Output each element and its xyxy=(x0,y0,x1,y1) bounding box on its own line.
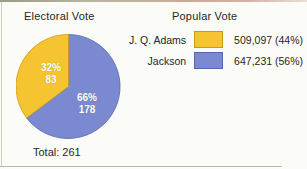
legend-swatch-adams xyxy=(194,31,223,48)
pie-label-jackson: 66% 178 xyxy=(70,92,104,116)
pie-label-jackson-percent: 66% xyxy=(70,92,104,104)
legend-label-adams: J. Q. Adams xyxy=(128,34,194,46)
pie-label-adams: 32% 83 xyxy=(34,62,68,86)
legend-value-adams: 509,097 (44%) xyxy=(223,34,303,46)
legend-label-jackson: Jackson xyxy=(128,55,194,67)
page-frame-left-rule xyxy=(1,2,2,167)
pie-label-jackson-count: 178 xyxy=(70,104,104,116)
popular-vote-legend: J. Q. Adams 509,097 (44%) Jackson 647,23… xyxy=(128,30,303,72)
electoral-vote-pie: 32% 83 66% 178 xyxy=(16,34,121,139)
page-frame-top-rule xyxy=(0,0,307,2)
legend-value-jackson: 647,231 (56%) xyxy=(223,55,303,67)
pie-svg xyxy=(16,34,121,139)
pie-chart-figure: Electoral Vote Popular Vote 32% 83 66% 1… xyxy=(0,0,307,169)
legend-swatch-jackson xyxy=(194,52,223,69)
legend-row-adams: J. Q. Adams 509,097 (44%) xyxy=(128,30,303,49)
pie-label-adams-percent: 32% xyxy=(34,62,68,74)
page-frame-bottom-rule xyxy=(0,166,282,167)
popular-vote-title: Popular Vote xyxy=(172,10,237,22)
pie-label-adams-count: 83 xyxy=(34,74,68,86)
electoral-vote-total: Total: 261 xyxy=(33,146,81,158)
legend-row-jackson: Jackson 647,231 (56%) xyxy=(128,51,303,70)
electoral-vote-title: Electoral Vote xyxy=(24,10,95,22)
